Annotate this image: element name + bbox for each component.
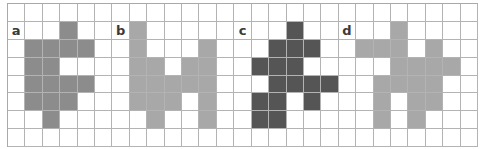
grid-cell xyxy=(112,111,129,129)
grid-cell xyxy=(130,111,147,129)
filled-cell-panel-a xyxy=(43,40,60,58)
grid-cell xyxy=(269,22,286,40)
filled-cell-panel-a xyxy=(60,40,77,58)
grid-cell xyxy=(443,4,460,22)
filled-cell-panel-a xyxy=(60,93,77,111)
filled-cell-panel-a xyxy=(25,58,42,76)
grid-cell xyxy=(147,4,164,22)
grid-cell xyxy=(217,40,234,58)
grid-cell xyxy=(339,111,356,129)
grid-cell xyxy=(95,40,112,58)
filled-cell-panel-a xyxy=(43,58,60,76)
grid-cell xyxy=(112,4,129,22)
filled-cell-panel-a xyxy=(25,76,42,94)
filled-cell-panel-d xyxy=(408,58,425,76)
filled-cell-panel-a xyxy=(78,40,95,58)
grid-cell xyxy=(426,4,443,22)
grid-cell xyxy=(321,40,338,58)
grid-cell xyxy=(78,93,95,111)
filled-cell-panel-b xyxy=(199,111,216,129)
filled-cell-panel-d xyxy=(391,76,408,94)
grid-cell xyxy=(217,58,234,76)
filled-cell-panel-b xyxy=(130,93,147,111)
filled-cell-panel-c xyxy=(287,40,304,58)
grid-cell xyxy=(147,129,164,147)
grid-cell xyxy=(165,4,182,22)
grid-cell xyxy=(426,129,443,147)
grid-cell xyxy=(234,4,251,22)
filled-cell-panel-a xyxy=(25,93,42,111)
grid-cell xyxy=(461,111,478,129)
filled-cell-panel-b xyxy=(199,58,216,76)
grid-cell xyxy=(321,111,338,129)
grid-cell xyxy=(8,111,25,129)
filled-cell-panel-c xyxy=(252,111,269,129)
grid-cell xyxy=(304,111,321,129)
grid-cell xyxy=(112,76,129,94)
filled-cell-panel-c xyxy=(269,58,286,76)
grid-cell xyxy=(356,58,373,76)
grid-cell xyxy=(252,22,269,40)
grid-cell xyxy=(321,22,338,40)
grid-cell xyxy=(461,40,478,58)
grid-cell xyxy=(443,111,460,129)
grid-cell xyxy=(25,22,42,40)
grid-cell xyxy=(321,129,338,147)
filled-cell-panel-b xyxy=(165,76,182,94)
grid-cell xyxy=(287,4,304,22)
filled-cell-panel-b xyxy=(147,76,164,94)
grid-cell xyxy=(217,22,234,40)
grid-cell xyxy=(408,129,425,147)
grid-cell xyxy=(78,58,95,76)
grid-cell xyxy=(287,93,304,111)
grid-cell xyxy=(165,129,182,147)
grid-cell xyxy=(356,76,373,94)
grid-cell xyxy=(8,76,25,94)
grid-cell xyxy=(339,129,356,147)
grid-cell xyxy=(234,129,251,147)
filled-cell-panel-b xyxy=(199,76,216,94)
grid-cell xyxy=(356,4,373,22)
grid-cell xyxy=(112,58,129,76)
filled-cell-panel-d xyxy=(426,40,443,58)
grid-cell xyxy=(461,58,478,76)
filled-cell-panel-c xyxy=(269,111,286,129)
grid-cell xyxy=(269,129,286,147)
filled-cell-panel-b xyxy=(182,76,199,94)
panel-label-d: d xyxy=(339,22,356,40)
filled-cell-panel-a xyxy=(78,76,95,94)
grid-cell xyxy=(252,4,269,22)
grid-cell xyxy=(234,58,251,76)
filled-cell-panel-c xyxy=(287,76,304,94)
grid-cell xyxy=(356,111,373,129)
grid-cell xyxy=(321,93,338,111)
filled-cell-panel-d xyxy=(426,93,443,111)
grid-cell xyxy=(443,129,460,147)
grid-cell xyxy=(43,22,60,40)
grid-cell xyxy=(25,4,42,22)
panel-label-a: a xyxy=(8,22,25,40)
grid-cell xyxy=(391,111,408,129)
filled-cell-panel-c xyxy=(269,93,286,111)
grid-cell xyxy=(408,22,425,40)
grid-cell xyxy=(304,58,321,76)
grid-cell xyxy=(182,111,199,129)
grid-cell xyxy=(269,4,286,22)
grid-cell xyxy=(78,111,95,129)
filled-cell-panel-a xyxy=(43,93,60,111)
grid-cell xyxy=(95,111,112,129)
grid-cell xyxy=(356,129,373,147)
filled-cell-panel-a xyxy=(60,76,77,94)
grid-cell xyxy=(339,76,356,94)
grid-cell xyxy=(95,76,112,94)
filled-cell-panel-b xyxy=(182,58,199,76)
grid-cell xyxy=(374,58,391,76)
grid-cell xyxy=(165,40,182,58)
filled-cell-panel-b xyxy=(199,93,216,111)
grid-cell xyxy=(461,76,478,94)
grid-cell xyxy=(25,111,42,129)
grid-cell xyxy=(408,40,425,58)
grid-cell xyxy=(165,58,182,76)
grid-cell xyxy=(8,93,25,111)
filled-cell-panel-b xyxy=(147,58,164,76)
